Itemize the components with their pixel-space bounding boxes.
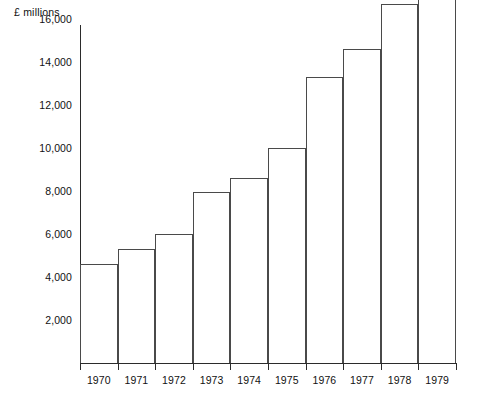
x-axis-label-1978: 1978 [381,374,419,386]
x-axis-tick [343,363,344,370]
y-axis-tick-label: 16,000 [10,14,72,25]
y-axis-tick-label: 12,000 [10,100,72,111]
y-axis-tick-label: 6,000 [10,229,72,240]
y-axis-tick-label: 14,000 [10,57,72,68]
bar-1979 [418,0,456,363]
bar-1974 [230,178,268,363]
y-axis-tick-labels: 2,0004,0006,0008,00010,00012,00014,00016… [0,0,72,399]
x-axis-label-1977: 1977 [343,374,381,386]
x-axis-tick [155,363,156,370]
x-axis-label-1976: 1976 [306,374,344,386]
x-axis-label-1970: 1970 [80,374,118,386]
bars-container [80,0,456,399]
bar-chart: £ millions 2,0004,0006,0008,00010,00012,… [0,0,486,399]
x-axis-label-1973: 1973 [193,374,231,386]
x-axis-tick [306,363,307,370]
x-axis-tick [268,363,269,370]
x-axis-tick [456,363,457,370]
bar-1971 [118,249,156,363]
bar-1970 [80,264,118,363]
x-axis-tick [230,363,231,370]
y-axis-tick-label: 2,000 [10,315,72,326]
x-axis-label-1975: 1975 [268,374,306,386]
x-axis-tick [381,363,382,370]
x-axis-label-1974: 1974 [230,374,268,386]
bar-1972 [155,234,193,363]
y-axis-tick-label: 4,000 [10,272,72,283]
bar-1973 [193,192,231,363]
x-axis-tick [193,363,194,370]
x-axis-label-1979: 1979 [418,374,456,386]
bar-1975 [268,148,306,363]
bar-1976 [306,77,344,363]
bar-1977 [343,49,381,363]
x-axis-label-1972: 1972 [155,374,193,386]
x-axis-tick [80,363,81,370]
y-axis-tick-label: 10,000 [10,143,72,154]
x-axis-tick [118,363,119,370]
y-axis-tick-label: 8,000 [10,186,72,197]
x-axis-label-1971: 1971 [118,374,156,386]
bar-1978 [381,4,419,363]
x-axis-tick [418,363,419,370]
